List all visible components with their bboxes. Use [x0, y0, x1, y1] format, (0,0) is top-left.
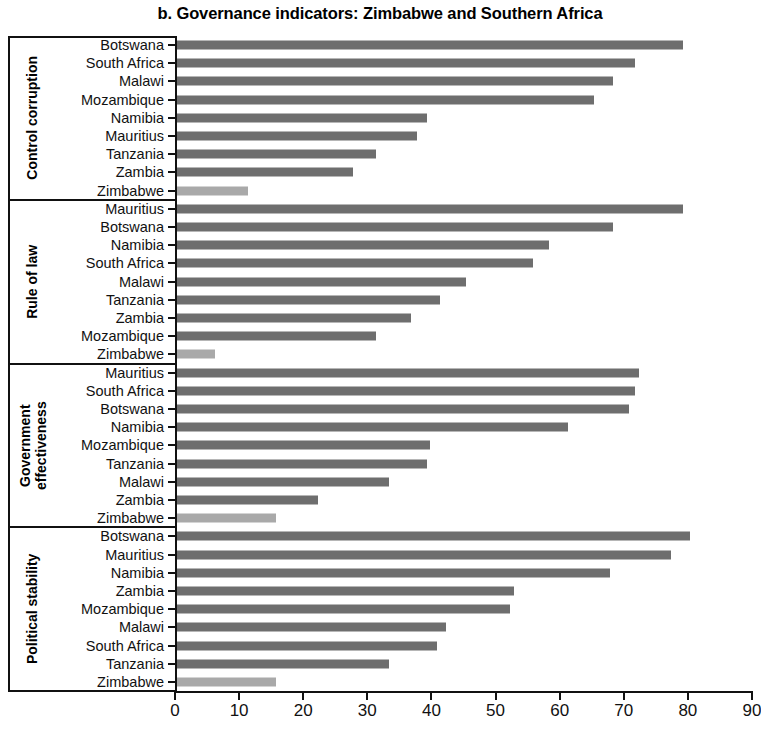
category-tick — [168, 244, 177, 246]
category-label: Namibia — [8, 420, 171, 435]
category-tick — [168, 117, 177, 119]
chart-row: Mozambique — [8, 91, 752, 109]
bar — [177, 41, 683, 50]
bar-track — [177, 473, 752, 491]
chart-row: Tanzania — [8, 655, 752, 673]
bar-track — [177, 236, 752, 254]
category-tick — [168, 481, 177, 483]
x-tick — [623, 691, 625, 700]
bar-track — [177, 454, 752, 472]
bar — [177, 59, 635, 68]
category-tick — [168, 590, 177, 592]
category-tick — [168, 317, 177, 319]
category-tick — [168, 226, 177, 228]
chart-row: Botswana — [8, 400, 752, 418]
category-tick — [168, 517, 177, 519]
chart-row: Tanzania — [8, 145, 752, 163]
category-tick — [168, 372, 177, 374]
category-tick — [168, 608, 177, 610]
category-tick — [168, 335, 177, 337]
bar — [177, 641, 437, 650]
x-tick-label: 70 — [614, 701, 633, 721]
category-tick — [168, 444, 177, 446]
bar-track — [177, 527, 752, 545]
chart-row: Zambia — [8, 309, 752, 327]
category-label: Zambia — [8, 584, 171, 599]
category-tick — [168, 390, 177, 392]
chart-row: Tanzania — [8, 291, 752, 309]
bar-track — [177, 145, 752, 163]
category-label: Namibia — [8, 111, 171, 126]
category-label: South Africa — [8, 384, 171, 399]
category-tick — [168, 572, 177, 574]
indicator-group: Rule of lawMauritiusBotswanaNamibiaSouth… — [8, 200, 752, 364]
x-tick — [495, 691, 497, 700]
category-label: Botswana — [8, 220, 171, 235]
bar — [177, 168, 353, 177]
chart-row: Zambia — [8, 582, 752, 600]
x-tick-label: 50 — [486, 701, 505, 721]
bar-track — [177, 291, 752, 309]
chart-row: Zimbabwe — [8, 345, 752, 363]
category-label: Tanzania — [8, 147, 171, 162]
bar — [177, 623, 446, 632]
bar — [177, 568, 610, 577]
category-label: Tanzania — [8, 293, 171, 308]
category-tick — [168, 663, 177, 665]
chart-row: Malawi — [8, 618, 752, 636]
chart-row: Mauritius — [8, 200, 752, 218]
bar-track — [177, 564, 752, 582]
chart-row: South Africa — [8, 382, 752, 400]
chart-row: South Africa — [8, 54, 752, 72]
category-tick — [168, 535, 177, 537]
chart-row: Namibia — [8, 564, 752, 582]
category-tick — [168, 645, 177, 647]
chart-row: Mozambique — [8, 327, 752, 345]
bar-track — [177, 400, 752, 418]
bar — [177, 277, 466, 286]
chart-row: Botswana — [8, 36, 752, 54]
bar-track — [177, 254, 752, 272]
x-tick-label: 90 — [743, 701, 761, 721]
chart-row: Zimbabwe — [8, 509, 752, 527]
bar — [177, 132, 417, 141]
chart-row: Mozambique — [8, 436, 752, 454]
category-tick — [168, 626, 177, 628]
bar — [177, 314, 411, 323]
bar-track — [177, 673, 752, 691]
bar-track — [177, 218, 752, 236]
bar — [177, 495, 318, 504]
x-tick-label: 30 — [358, 701, 377, 721]
bar-track — [177, 364, 752, 382]
chart-row: Namibia — [8, 236, 752, 254]
category-tick — [168, 62, 177, 64]
chart-row: Mauritius — [8, 545, 752, 563]
indicator-group: Government effectivenessMauritiusSouth A… — [8, 364, 752, 528]
category-label: South Africa — [8, 256, 171, 271]
chart-row: Mozambique — [8, 600, 752, 618]
bar — [177, 459, 427, 468]
category-label: Zambia — [8, 311, 171, 326]
group-separator — [8, 690, 176, 692]
category-tick — [168, 208, 177, 210]
chart-row: Zimbabwe — [8, 182, 752, 200]
bar — [177, 223, 613, 232]
x-axis-line — [175, 691, 752, 693]
category-tick — [168, 153, 177, 155]
chart-row: Malawi — [8, 72, 752, 90]
bar-track — [177, 163, 752, 181]
x-tick-label: 80 — [678, 701, 697, 721]
bar-track — [177, 655, 752, 673]
category-label: Zimbabwe — [8, 511, 171, 526]
bar-track — [177, 200, 752, 218]
group-container: Control corruptionBotswanaSouth AfricaMa… — [8, 36, 752, 691]
bar-track — [177, 600, 752, 618]
category-tick — [168, 262, 177, 264]
x-tick — [559, 691, 561, 700]
category-label: South Africa — [8, 638, 171, 653]
bar — [177, 77, 613, 86]
chart-row: South Africa — [8, 636, 752, 654]
category-tick — [168, 426, 177, 428]
category-tick — [168, 499, 177, 501]
x-tick — [430, 691, 432, 700]
